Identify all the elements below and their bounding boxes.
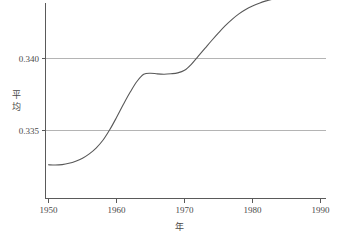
y-tick-labels: 0.340 0.335 — [19, 54, 40, 136]
x-tick-label-1990: 1990 — [312, 205, 331, 215]
chart-container: 0.340 0.335 1950 1960 1970 1980 1990 年 平… — [0, 0, 338, 239]
y-axis-title-char-1: 均 — [12, 101, 21, 112]
x-tick-labels: 1950 1960 1970 1980 1990 — [40, 205, 331, 215]
y-tick-label-0340: 0.340 — [19, 54, 40, 64]
x-tick-marks — [49, 199, 321, 204]
x-tick-label-1950: 1950 — [40, 205, 59, 215]
x-tick-label-1960: 1960 — [108, 205, 127, 215]
axes — [46, 3, 327, 199]
x-tick-label-1980: 1980 — [244, 205, 263, 215]
y-tick-marks — [42, 59, 46, 131]
y-axis-title: 平 均 — [12, 90, 21, 112]
data-series-line — [49, 0, 314, 165]
x-tick-label-1970: 1970 — [176, 205, 195, 215]
x-axis-title: 年 — [175, 221, 184, 232]
y-tick-label-0335: 0.335 — [19, 126, 40, 136]
line-chart: 0.340 0.335 1950 1960 1970 1980 1990 年 平… — [0, 0, 338, 239]
y-axis-title-char-0: 平 — [12, 90, 21, 100]
